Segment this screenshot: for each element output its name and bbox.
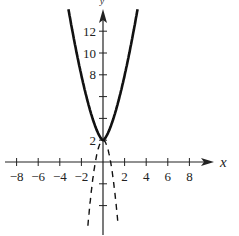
x-tick-label: 2 xyxy=(121,169,128,184)
y-tick-label: 10 xyxy=(83,46,96,61)
chart: −8−6−4−22468281012 x y xyxy=(0,0,239,236)
x-tick-label: 8 xyxy=(186,169,193,184)
y-tick-label: 8 xyxy=(90,67,97,82)
x-tick-label: 4 xyxy=(143,169,150,184)
x-tick-label: −8 xyxy=(10,169,24,184)
y-tick-label: 12 xyxy=(83,24,96,39)
y-axis-label: y xyxy=(99,0,104,6)
x-tick-label: −2 xyxy=(74,169,88,184)
x-tick-label: −6 xyxy=(31,169,45,184)
x-tick-label: 6 xyxy=(165,169,172,184)
ticks: −8−6−4−22468281012 xyxy=(10,24,193,206)
x-tick-label: −4 xyxy=(53,169,67,184)
y-tick-label: 2 xyxy=(90,133,97,148)
x-axis-label: x xyxy=(219,154,227,170)
axes xyxy=(5,9,214,235)
